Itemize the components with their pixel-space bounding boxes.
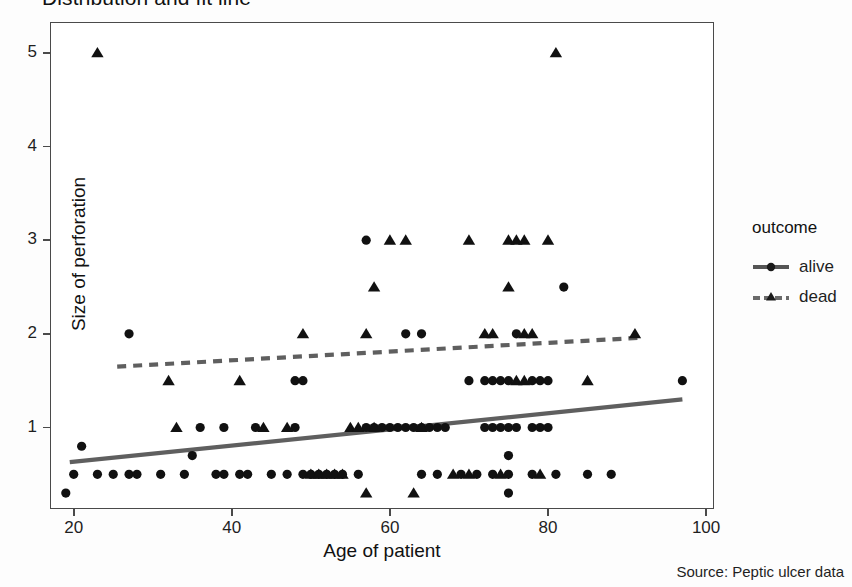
data-point-alive <box>132 470 141 479</box>
legend-label-dead: dead <box>799 287 837 307</box>
source-caption: Source: Peptic ulcer data <box>676 563 844 580</box>
y-tick-label: 2 <box>11 323 37 343</box>
data-point-alive <box>211 470 220 479</box>
data-point-alive <box>61 488 70 497</box>
data-points-layer <box>50 22 714 509</box>
data-point-alive <box>109 470 118 479</box>
data-point-alive <box>496 376 505 385</box>
data-point-alive <box>504 451 513 460</box>
data-point-dead <box>542 234 554 244</box>
data-point-alive <box>196 423 205 432</box>
data-point-alive <box>69 470 78 479</box>
data-point-dead <box>486 328 498 338</box>
data-point-alive <box>417 329 426 338</box>
y-tick-label: 5 <box>11 42 37 62</box>
data-point-alive <box>219 470 228 479</box>
data-point-alive <box>267 470 276 479</box>
data-point-alive <box>496 423 505 432</box>
chart-container: Distribution and fit line Size of perfor… <box>0 0 852 587</box>
y-tick-mark <box>43 146 50 148</box>
data-point-dead <box>463 234 475 244</box>
y-tick-label: 4 <box>11 136 37 156</box>
data-point-alive <box>488 376 497 385</box>
x-tick-mark <box>389 509 391 516</box>
data-point-dead <box>384 234 396 244</box>
data-point-alive <box>512 423 521 432</box>
y-tick-mark <box>43 333 50 335</box>
legend-item-dead[interactable]: dead <box>752 284 852 310</box>
legend-label-alive: alive <box>799 257 834 277</box>
x-tick-label: 20 <box>52 518 96 538</box>
data-point-alive <box>480 376 489 385</box>
data-point-dead <box>234 375 246 385</box>
data-point-dead <box>550 47 562 57</box>
data-point-alive <box>77 442 86 451</box>
legend: outcome alive dead <box>752 218 852 314</box>
data-point-alive <box>156 470 165 479</box>
y-axis-title: Size of perforation <box>68 124 90 384</box>
data-point-alive <box>480 423 489 432</box>
legend-key-dead <box>752 287 790 307</box>
data-point-alive <box>433 470 442 479</box>
data-point-alive <box>362 236 371 245</box>
data-point-alive <box>417 470 426 479</box>
data-point-alive <box>180 470 189 479</box>
y-tick-mark <box>43 239 50 241</box>
data-point-alive <box>488 423 497 432</box>
data-point-alive <box>401 423 410 432</box>
data-point-alive <box>124 329 133 338</box>
data-point-alive <box>354 470 363 479</box>
data-point-dead <box>170 422 182 432</box>
x-tick-mark <box>73 509 75 516</box>
data-point-alive <box>441 423 450 432</box>
y-tick-label: 3 <box>11 229 37 249</box>
data-point-dead <box>407 487 419 497</box>
data-point-alive <box>583 470 592 479</box>
x-tick-label: 100 <box>684 518 728 538</box>
data-point-alive <box>219 423 228 432</box>
data-point-dead <box>502 281 514 291</box>
data-point-alive <box>504 488 513 497</box>
data-point-alive <box>385 423 394 432</box>
data-point-alive <box>504 423 513 432</box>
data-point-alive <box>283 470 292 479</box>
data-point-alive <box>559 282 568 291</box>
data-point-dead <box>629 328 641 338</box>
x-axis-title: Age of patient <box>50 540 714 562</box>
data-point-alive <box>188 451 197 460</box>
data-point-dead <box>360 328 372 338</box>
data-point-alive <box>243 470 252 479</box>
x-tick-label: 40 <box>210 518 254 538</box>
data-point-alive <box>543 423 552 432</box>
data-point-alive <box>93 470 102 479</box>
x-tick-mark <box>231 509 233 516</box>
data-point-alive <box>528 423 537 432</box>
data-point-dead <box>297 328 309 338</box>
data-point-alive <box>535 423 544 432</box>
data-point-alive <box>678 376 687 385</box>
data-point-alive <box>124 470 133 479</box>
data-point-alive <box>393 423 402 432</box>
data-point-dead <box>360 487 372 497</box>
x-tick-label: 80 <box>526 518 570 538</box>
data-point-dead <box>162 375 174 385</box>
data-point-alive <box>290 376 299 385</box>
data-point-dead <box>526 328 538 338</box>
y-tick-mark <box>43 427 50 429</box>
x-tick-label: 60 <box>368 518 412 538</box>
y-tick-label: 1 <box>11 417 37 437</box>
data-point-alive <box>298 376 307 385</box>
data-point-dead <box>400 234 412 244</box>
data-point-alive <box>235 470 244 479</box>
x-tick-mark <box>547 509 549 516</box>
legend-key-alive <box>752 257 790 277</box>
data-point-alive <box>607 470 616 479</box>
data-point-dead <box>91 47 103 57</box>
legend-title: outcome <box>752 218 852 238</box>
data-point-dead <box>518 234 530 244</box>
data-point-alive <box>401 329 410 338</box>
data-point-alive <box>535 376 544 385</box>
data-point-alive <box>464 376 473 385</box>
page-title: Distribution and fit line <box>42 0 251 10</box>
legend-item-alive[interactable]: alive <box>752 254 852 280</box>
